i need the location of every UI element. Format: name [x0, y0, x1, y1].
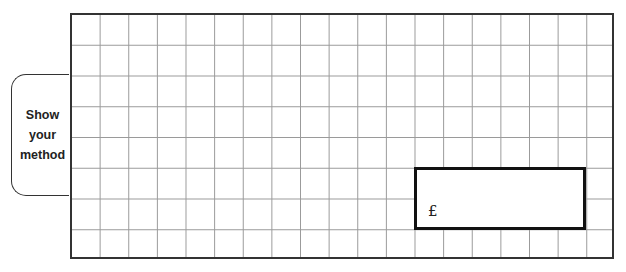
tab-line-1: Show: [20, 105, 65, 125]
pound-sign: £: [428, 202, 438, 220]
answer-box[interactable]: £: [414, 167, 586, 230]
show-your-method-tab: Show your method: [11, 74, 69, 196]
tab-line-2: your: [20, 125, 65, 145]
tab-line-3: method: [20, 145, 65, 165]
show-your-method-label: Show your method: [20, 105, 65, 165]
